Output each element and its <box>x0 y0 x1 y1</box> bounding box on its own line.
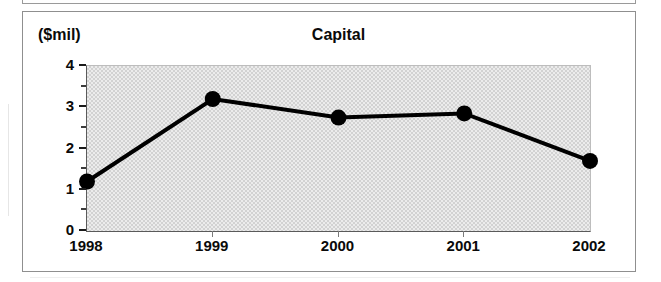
y-tick-2 <box>79 147 86 149</box>
y-tick-label-3: 3 <box>44 98 74 113</box>
y-tick-0 <box>79 229 86 231</box>
scan-artifact <box>30 277 630 278</box>
x-tick-label-2001: 2001 <box>428 238 498 253</box>
y-tick-label-1: 1 <box>44 181 74 196</box>
data-point-2002 <box>582 153 598 169</box>
y-tick-label-0: 0 <box>44 222 74 237</box>
chart-title: Capital <box>86 26 591 44</box>
x-tick-label-1998: 1998 <box>51 238 121 253</box>
data-point-2001 <box>456 105 472 121</box>
plot-series-svg <box>87 66 590 231</box>
series-markers-capital <box>79 91 598 190</box>
plot-area <box>86 65 591 232</box>
x-tick-label-2000: 2000 <box>303 238 373 253</box>
y-tick-4 <box>79 64 86 66</box>
y-minor-tick-0-5 <box>81 208 86 210</box>
y-tick-label-2: 2 <box>44 140 74 155</box>
y-axis-unit-label: ($mil) <box>38 26 81 44</box>
x-tick-label-1999: 1999 <box>177 238 247 253</box>
y-tick-3 <box>79 105 86 107</box>
y-tick-label-4: 4 <box>44 57 74 72</box>
data-point-2000 <box>331 110 347 126</box>
capital-line-chart: ($mil) Capital 43210 1998199920002001200… <box>0 0 661 282</box>
x-tick-label-2002: 2002 <box>554 238 624 253</box>
data-point-1999 <box>205 91 221 107</box>
y-minor-tick-3-5 <box>81 85 86 87</box>
y-tick-1 <box>79 188 86 190</box>
y-minor-tick-2-5 <box>81 126 86 128</box>
y-minor-tick-1-5 <box>81 167 86 169</box>
